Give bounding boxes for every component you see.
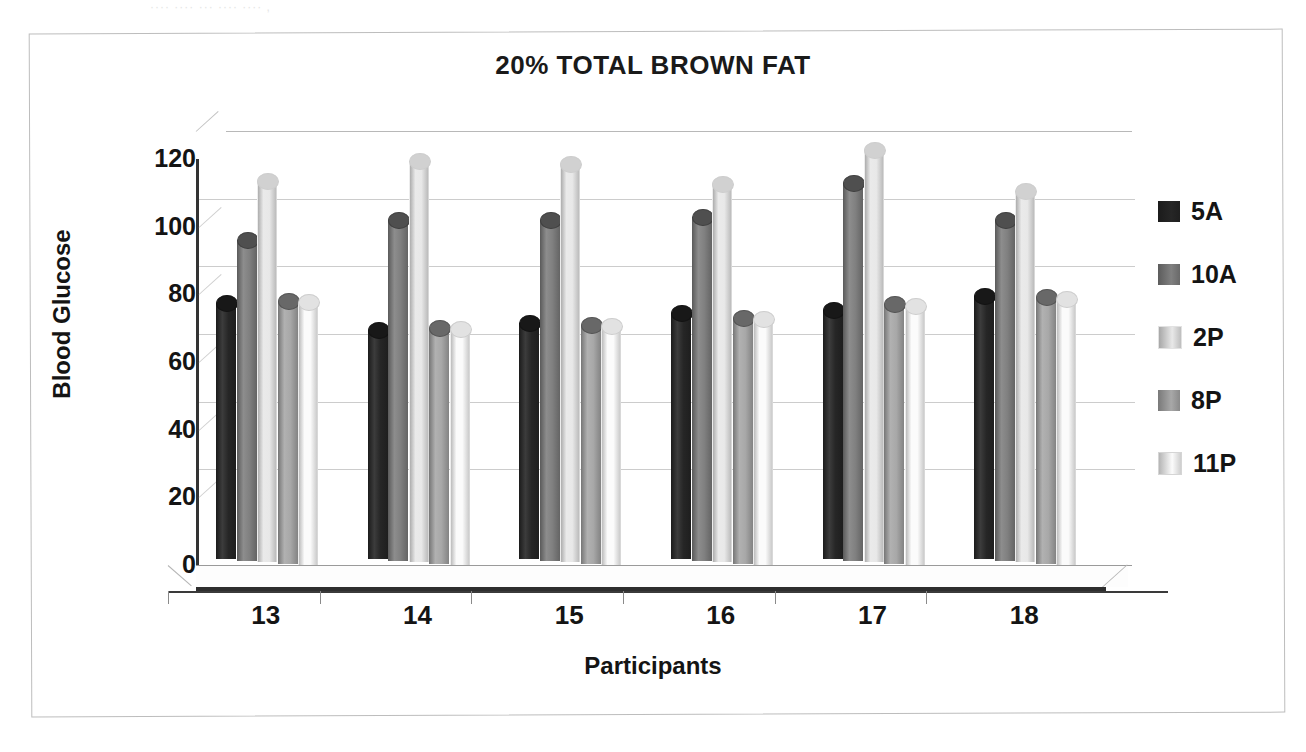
legend-item-10a[interactable]: 10A bbox=[1158, 261, 1278, 287]
bar bbox=[388, 212, 408, 560]
bar-body bbox=[560, 164, 580, 562]
bar bbox=[1056, 291, 1076, 565]
bar-cap bbox=[843, 175, 865, 192]
legend-swatch-icon bbox=[1158, 201, 1180, 222]
bar-body bbox=[712, 184, 732, 562]
legend-label: 2P bbox=[1193, 325, 1224, 350]
bar bbox=[823, 302, 843, 559]
bar bbox=[733, 310, 753, 564]
bar-body bbox=[601, 326, 621, 565]
legend-label: 10A bbox=[1191, 262, 1237, 287]
bar bbox=[864, 142, 884, 562]
bar bbox=[409, 153, 429, 562]
bar bbox=[905, 298, 925, 565]
bar-body bbox=[429, 328, 449, 564]
bar-body bbox=[368, 330, 388, 559]
x-axis-title: Participants bbox=[0, 652, 1306, 680]
bar bbox=[843, 175, 863, 561]
x-tick-label: 13 bbox=[206, 600, 326, 631]
x-tick-label: 14 bbox=[358, 600, 478, 631]
legend-swatch-icon bbox=[1158, 452, 1182, 475]
bar bbox=[298, 294, 318, 565]
bar bbox=[692, 209, 712, 561]
legend-item-11p[interactable]: 11P bbox=[1158, 450, 1278, 476]
bar bbox=[974, 288, 994, 559]
bar-body bbox=[995, 220, 1015, 560]
x-tick-label: 17 bbox=[813, 600, 933, 631]
x-tick-mark bbox=[926, 591, 927, 604]
x-tick-label: 16 bbox=[661, 600, 781, 631]
bar-cap bbox=[216, 295, 238, 312]
chart-legend: 5A10A2P8P11P bbox=[1158, 198, 1278, 513]
legend-swatch-icon bbox=[1158, 264, 1180, 285]
bar-body bbox=[753, 319, 773, 565]
bar-body bbox=[540, 220, 560, 560]
bar-body bbox=[905, 306, 925, 565]
bar-cap bbox=[995, 212, 1017, 229]
legend-label: 8P bbox=[1191, 388, 1222, 413]
bar bbox=[429, 320, 449, 564]
bar-cap bbox=[692, 209, 714, 226]
bar bbox=[560, 156, 580, 562]
bar-body bbox=[864, 150, 884, 562]
bar bbox=[216, 295, 236, 559]
bar bbox=[450, 321, 470, 565]
bar-cap bbox=[368, 322, 390, 339]
bar-body bbox=[884, 304, 904, 563]
legend-swatch-icon bbox=[1158, 326, 1182, 349]
bar bbox=[1036, 289, 1056, 563]
bar bbox=[712, 176, 732, 562]
bar-body bbox=[671, 313, 691, 559]
bar-body bbox=[974, 296, 994, 559]
x-tick-mark bbox=[320, 591, 321, 604]
x-tick-mark bbox=[471, 591, 472, 604]
chart-plot-area: Blood Glucose 020406080100120 Participan… bbox=[0, 0, 1306, 752]
bar bbox=[671, 305, 691, 559]
bar-cap bbox=[409, 153, 431, 170]
bar bbox=[884, 296, 904, 563]
x-tick-mark bbox=[623, 591, 624, 604]
bar-cap bbox=[429, 320, 451, 337]
bar-cap bbox=[237, 232, 259, 249]
bar-body bbox=[216, 303, 236, 559]
bar-body bbox=[388, 220, 408, 560]
bar-series-container bbox=[0, 0, 1306, 752]
bar-body bbox=[1015, 191, 1035, 562]
bar-body bbox=[733, 318, 753, 564]
bar bbox=[519, 315, 539, 559]
bar-cap bbox=[733, 310, 755, 327]
legend-item-5a[interactable]: 5A bbox=[1158, 198, 1278, 224]
legend-item-8p[interactable]: 8P bbox=[1158, 387, 1278, 413]
x-tick-label: 15 bbox=[509, 600, 629, 631]
bar bbox=[540, 212, 560, 560]
legend-label: 11P bbox=[1193, 451, 1236, 476]
bar-body bbox=[692, 217, 712, 561]
bar-body bbox=[409, 161, 429, 562]
bar-body bbox=[278, 301, 298, 564]
bar-body bbox=[237, 240, 257, 560]
bar-cap bbox=[823, 302, 845, 319]
bar-cap bbox=[257, 173, 279, 190]
x-tick-mark bbox=[775, 591, 776, 604]
bar bbox=[753, 311, 773, 565]
bar bbox=[257, 173, 277, 562]
bar-body bbox=[298, 302, 318, 565]
legend-label: 5A bbox=[1191, 199, 1223, 224]
bar-body bbox=[450, 329, 470, 565]
bar-cap bbox=[581, 317, 603, 334]
bar bbox=[278, 293, 298, 564]
legend-swatch-icon bbox=[1158, 390, 1180, 411]
bar bbox=[995, 212, 1015, 560]
bar-body bbox=[1056, 299, 1076, 565]
x-tick-mark bbox=[168, 591, 169, 604]
bar-cap bbox=[905, 298, 927, 315]
bar-body bbox=[1036, 297, 1056, 563]
bar-cap bbox=[278, 293, 300, 310]
bar bbox=[1015, 183, 1035, 562]
bar bbox=[368, 322, 388, 559]
bar-cap bbox=[540, 212, 562, 229]
bar bbox=[581, 317, 601, 564]
bar-body bbox=[581, 325, 601, 564]
legend-item-2p[interactable]: 2P bbox=[1158, 324, 1278, 350]
bar-body bbox=[823, 310, 843, 559]
